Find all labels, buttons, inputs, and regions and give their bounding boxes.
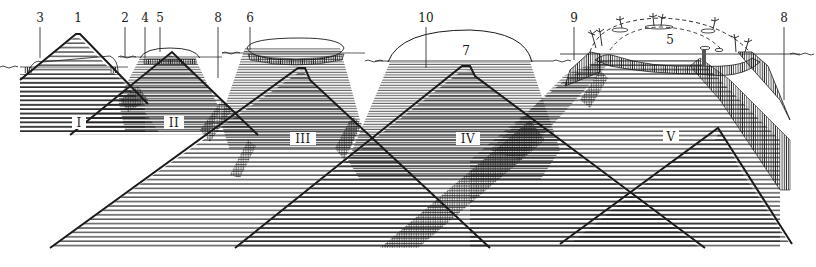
stage-label-i: I xyxy=(76,116,81,130)
islet xyxy=(715,48,723,51)
stage-label-ii: II xyxy=(169,116,179,130)
lagoon-pinnacle xyxy=(702,50,706,66)
reef-formation-diagram: I II III IV V 1 2 3 4 5 5 6 7 8 8 9 10 xyxy=(0,0,816,267)
callout-8-left: 8 xyxy=(214,11,222,25)
callout-5-lagoon: 5 xyxy=(666,33,674,47)
callout-8-right: 8 xyxy=(780,11,788,25)
stage-label-iii: III xyxy=(295,132,311,146)
callout-7: 7 xyxy=(462,44,470,58)
islet xyxy=(612,28,628,32)
callout-2: 2 xyxy=(121,11,129,25)
callout-5-barrier: 5 xyxy=(156,11,164,25)
islet xyxy=(701,29,715,33)
callout-9: 9 xyxy=(570,11,578,25)
stage-label-iv: IV xyxy=(461,132,475,146)
callout-6: 6 xyxy=(246,11,254,25)
stage-iv-dome xyxy=(388,30,532,62)
islet xyxy=(700,46,710,49)
callout-1: 1 xyxy=(74,11,82,25)
callout-10: 10 xyxy=(418,11,433,25)
stage-label-v: V xyxy=(665,130,675,144)
callout-4: 4 xyxy=(141,11,149,25)
callout-3: 3 xyxy=(36,11,44,25)
